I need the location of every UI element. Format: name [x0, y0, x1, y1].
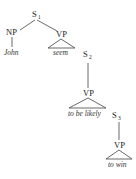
node-vp3: VP	[114, 140, 125, 150]
node-vp2: VP	[83, 88, 94, 98]
svg-text:S: S	[83, 49, 88, 59]
svg-text:3: 3	[118, 115, 121, 121]
triangle-vp3	[106, 150, 132, 159]
edge-s1-np	[20, 20, 35, 30]
edge-s1-vp	[37, 20, 57, 31]
triangle-vp2	[69, 98, 106, 108]
syntax-tree: S 1 NP John VP seem S 2 VP to be likely …	[0, 0, 136, 179]
leaf-seem: seem	[53, 48, 69, 57]
node-s2: S 2	[83, 49, 92, 60]
node-s3: S 3	[112, 110, 121, 121]
svg-text:2: 2	[89, 54, 92, 60]
leaf-to-win: to win	[108, 160, 127, 169]
leaf-to-be-likely: to be likely	[68, 109, 102, 118]
svg-text:1: 1	[38, 14, 41, 20]
node-vp1: VP	[56, 29, 67, 39]
leaf-john: John	[4, 48, 19, 57]
node-s1: S 1	[32, 9, 41, 20]
svg-text:S: S	[32, 9, 37, 19]
triangle-vp1	[48, 39, 75, 48]
svg-text:S: S	[112, 110, 117, 120]
node-np: NP	[6, 27, 17, 37]
